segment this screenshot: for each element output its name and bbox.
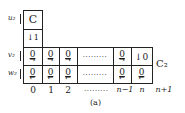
col-index-1: 1	[46, 85, 56, 95]
cell-v-dots: ·········	[77, 48, 113, 65]
row-label-u-bar	[20, 14, 21, 24]
right-arrow-icon: →	[65, 58, 71, 63]
cell-w-n: 0 ←	[131, 66, 152, 83]
cell-v-2: 0 →	[59, 48, 77, 65]
cell-w-1: 0 ←	[42, 66, 59, 83]
row-label-v: v₂	[8, 51, 15, 59]
top-cell-c: C	[23, 11, 43, 29]
col-index-0: 0	[28, 85, 38, 95]
figure-caption: (a)	[90, 98, 101, 107]
left-arrow-icon: ←	[65, 76, 71, 81]
row-label-v-bar	[20, 51, 21, 61]
cell-v-n-value: ↓0	[135, 53, 148, 61]
row-label-u: u₂	[8, 14, 15, 22]
top-cell-down-one-label: ↓1	[27, 34, 39, 42]
right-arrow-icon: →	[48, 58, 54, 63]
row-label-w-bar	[20, 69, 21, 79]
col-index-n-minus-1: n−1	[114, 85, 136, 94]
col-index-n: n	[137, 85, 147, 94]
row-label-w: w₂	[8, 69, 17, 77]
cell-v-1: 0 →	[42, 48, 59, 65]
cell-v-n: ↓0	[131, 48, 152, 65]
cell-w-dots: ·········	[77, 66, 113, 83]
cell-w-2: 0 ←	[59, 66, 77, 83]
right-arrow-icon: →	[30, 58, 36, 63]
cell-w-0: 0 ←	[23, 66, 42, 83]
left-arrow-icon: ←	[119, 76, 125, 81]
ellipsis-dots: ·········	[83, 71, 108, 79]
col-index-dots: ·········	[84, 87, 109, 95]
cell-w-n-minus-1: 0 ←	[113, 66, 131, 83]
right-arrow-icon: →	[119, 58, 125, 63]
cell-v-n-minus-1: 0 →	[113, 48, 131, 65]
col-index-n-plus-1: n+1	[153, 85, 175, 94]
ellipsis-dots: ·········	[83, 53, 108, 61]
cell-v-0: 0 →	[23, 48, 42, 65]
c2-label: C₂	[156, 58, 168, 69]
col-index-2: 2	[63, 85, 73, 95]
left-arrow-icon: ←	[139, 76, 145, 81]
top-cell-down-one: ↓1	[23, 30, 43, 46]
top-cell-c-label: C	[29, 16, 37, 24]
left-arrow-icon: ←	[30, 76, 36, 81]
left-arrow-icon: ←	[48, 76, 54, 81]
